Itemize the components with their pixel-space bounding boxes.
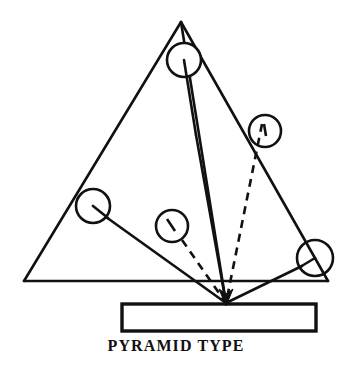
figure-root: PYRAMID TYPE [0,0,352,369]
pyramid-type-diagram [0,0,352,369]
substrate-plate [122,304,316,331]
